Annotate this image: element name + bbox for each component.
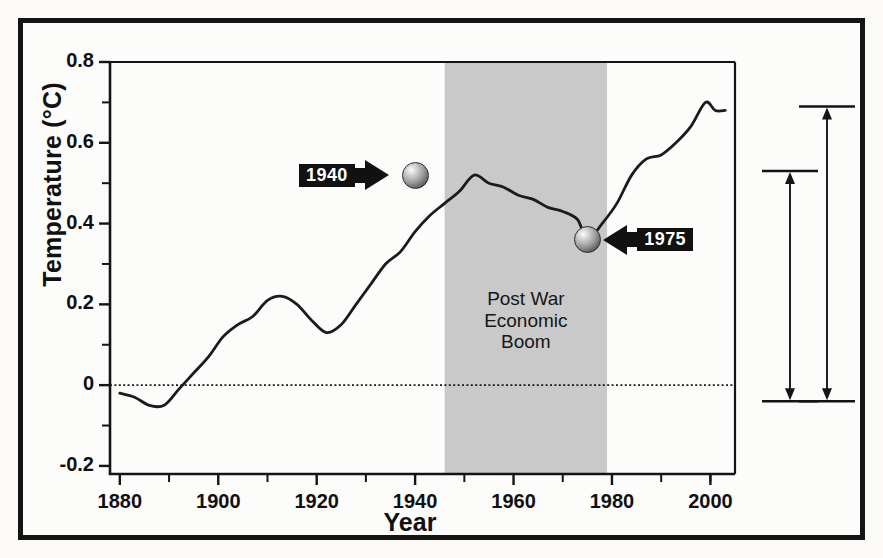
y-axis-tick-label: 0.4 (24, 211, 94, 234)
shaded-region-band (445, 62, 607, 474)
1975-callout: 1975 (603, 225, 693, 255)
x-axis-tick-label: 2000 (670, 490, 750, 513)
outer-range-bar (799, 106, 855, 401)
1940-callout-arrow-head (365, 160, 389, 190)
x-axis-tick-label: 1980 (572, 490, 652, 513)
x-axis-tick-label: 1940 (375, 490, 455, 513)
y-axis-tick-label: 0.6 (24, 130, 94, 153)
y-axis-tick-label: 0 (24, 372, 94, 395)
figure: Temperature (°C) Year -0.200.20.40.60.81… (0, 0, 883, 558)
range-bar-down-arrowhead (785, 388, 795, 400)
x-axis-tick-label: 1920 (277, 490, 357, 513)
1975-callout-label: 1975 (637, 228, 693, 251)
chart-canvas (0, 0, 883, 558)
range-bar-up-arrowhead (822, 107, 832, 119)
shaded-region-label-line: Economic (426, 310, 626, 332)
1940-callout: 1940 (299, 160, 389, 190)
y-axis-tick-label: 0.2 (24, 291, 94, 314)
y-axis-tick-label: 0.8 (24, 49, 94, 72)
y-axis-title: Temperature (°C) (38, 35, 67, 335)
1940-callout-label: 1940 (299, 164, 355, 187)
shaded-region-label-line: Boom (426, 331, 626, 353)
1940-callout-arrow-stem (355, 168, 365, 183)
x-axis-tick-label: 1880 (80, 490, 160, 513)
shaded-region-label-line: Post War (426, 288, 626, 310)
x-axis-tick-label: 1960 (474, 490, 554, 513)
1940-callout-marker-sphere (402, 162, 429, 189)
range-bar-up-arrowhead (785, 172, 795, 184)
1975-callout-marker-sphere (574, 226, 601, 253)
inner-range-bar (762, 171, 818, 401)
1975-callout-arrow-head (603, 225, 627, 255)
1975-callout-arrow-stem (627, 232, 637, 247)
x-axis-tick-label: 1900 (178, 490, 258, 513)
y-axis-tick-label: -0.2 (24, 453, 94, 476)
range-bar-down-arrowhead (822, 388, 832, 400)
axis-spines (110, 62, 735, 474)
